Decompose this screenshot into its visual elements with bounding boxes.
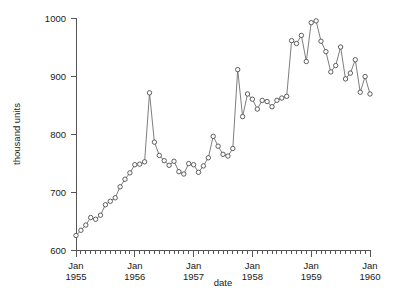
data-point-marker: [343, 77, 347, 81]
y-tick-label: 600: [50, 245, 66, 256]
x-tick-label-year: 1957: [183, 271, 204, 282]
data-point-marker: [152, 140, 156, 144]
data-point-marker: [128, 171, 132, 175]
data-point-marker: [304, 59, 308, 63]
data-point-marker: [103, 203, 107, 207]
data-series-markers: [74, 19, 372, 238]
data-point-marker: [138, 162, 142, 166]
x-tick-label-month: Jan: [186, 260, 201, 271]
data-point-marker: [108, 199, 112, 203]
y-tick-label: 700: [50, 187, 66, 198]
data-point-marker: [79, 228, 83, 232]
data-point-marker: [84, 223, 88, 227]
x-axis-tick-marks: [76, 250, 370, 257]
data-point-marker: [236, 67, 240, 71]
data-point-marker: [231, 146, 235, 150]
y-axis-title: thousand units: [11, 103, 22, 165]
data-point-marker: [162, 158, 166, 162]
data-point-marker: [363, 74, 367, 78]
y-tick-label: 900: [50, 71, 66, 82]
data-point-marker: [294, 41, 298, 45]
data-point-marker: [201, 164, 205, 168]
y-axis-tick-marks: [71, 18, 76, 250]
data-point-marker: [221, 152, 225, 156]
data-point-marker: [191, 163, 195, 167]
data-point-marker: [74, 233, 78, 237]
x-tick-label-month: Jan: [304, 260, 319, 271]
data-point-marker: [334, 63, 338, 67]
data-point-marker: [172, 159, 176, 163]
data-point-marker: [299, 33, 303, 37]
data-point-marker: [353, 58, 357, 62]
data-point-marker: [196, 170, 200, 174]
x-tick-label-year: 1959: [301, 271, 322, 282]
x-tick-label-year: 1955: [65, 271, 86, 282]
data-point-marker: [98, 213, 102, 217]
data-point-marker: [157, 153, 161, 157]
data-point-marker: [182, 172, 186, 176]
data-point-marker: [270, 105, 274, 109]
data-point-marker: [309, 20, 313, 24]
x-tick-label-month: Jan: [127, 260, 142, 271]
data-point-marker: [89, 215, 93, 219]
data-point-marker: [280, 96, 284, 100]
data-point-marker: [260, 98, 264, 102]
data-point-marker: [319, 39, 323, 43]
line-chart-figure: 6007008009001000 Jan1955Jan1956Jan1957Ja…: [0, 0, 415, 302]
data-point-marker: [265, 99, 269, 103]
x-tick-label-year: 1958: [242, 271, 263, 282]
data-point-marker: [348, 71, 352, 75]
data-point-marker: [177, 170, 181, 174]
data-point-marker: [133, 163, 137, 167]
data-point-marker: [226, 154, 230, 158]
x-axis-title: date: [214, 277, 233, 288]
data-point-marker: [250, 97, 254, 101]
y-axis-tick-labels: 6007008009001000: [45, 13, 66, 256]
x-tick-label-month: Jan: [245, 260, 260, 271]
data-point-marker: [255, 107, 259, 111]
data-point-marker: [245, 92, 249, 96]
data-point-marker: [216, 144, 220, 148]
chart-plot-area: 6007008009001000 Jan1955Jan1956Jan1957Ja…: [0, 0, 415, 302]
x-tick-label-month: Jan: [362, 260, 377, 271]
data-point-marker: [324, 49, 328, 53]
data-point-marker: [187, 161, 191, 165]
data-point-marker: [329, 70, 333, 74]
data-point-marker: [289, 38, 293, 42]
data-point-marker: [113, 196, 117, 200]
data-point-marker: [147, 91, 151, 95]
data-point-marker: [358, 90, 362, 94]
data-point-marker: [118, 185, 122, 189]
data-point-marker: [123, 177, 127, 181]
x-tick-label-year: 1956: [124, 271, 145, 282]
data-point-marker: [240, 114, 244, 118]
y-tick-label: 800: [50, 129, 66, 140]
data-point-marker: [285, 94, 289, 98]
data-point-marker: [93, 217, 97, 221]
data-point-marker: [275, 98, 279, 102]
data-point-marker: [314, 19, 318, 23]
data-point-marker: [338, 45, 342, 49]
x-tick-label-year: 1960: [359, 271, 380, 282]
data-point-marker: [142, 160, 146, 164]
x-tick-label-month: Jan: [68, 260, 83, 271]
y-tick-label: 1000: [45, 13, 66, 24]
data-point-marker: [211, 134, 215, 138]
data-point-marker: [368, 92, 372, 96]
data-point-marker: [167, 163, 171, 167]
data-point-marker: [206, 156, 210, 160]
